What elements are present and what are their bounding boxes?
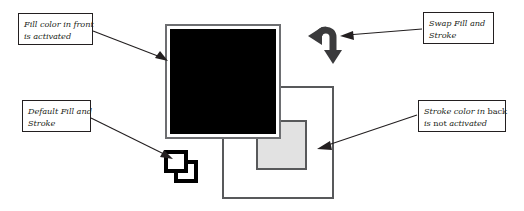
callout-default-fill-and-stroke: Default Fill and Stroke [22, 100, 91, 132]
callout-emphasis: back [487, 106, 506, 116]
callout-line-1: Swap Fill and [429, 17, 488, 29]
arrow-default-fill-stroke [91, 118, 173, 159]
callout-line-1: Stroke color in back [424, 105, 500, 117]
callout-emphasis: not [433, 118, 446, 128]
callout-line-2: Stroke [429, 29, 488, 41]
fill-and-stroke-diagram: Fill color in front is activated Default… [0, 0, 524, 211]
callout-line-2: is not activated [424, 117, 500, 129]
arrow-swap [340, 29, 422, 40]
callout-fill-color-in-front: Fill color in front is activated [18, 13, 93, 45]
callout-line-2: is activated [24, 30, 87, 42]
callout-text: is [424, 118, 433, 128]
callout-swap-fill-and-stroke: Swap Fill and Stroke [423, 12, 494, 44]
arrow-fill-front [93, 31, 168, 61]
callout-text: Stroke color in [424, 106, 487, 116]
callout-line-1: Default Fill and [28, 105, 85, 117]
callout-stroke-color-in-back: Stroke color in back is not activated [418, 100, 506, 132]
callout-line-2: Stroke [28, 117, 85, 129]
arrow-stroke-back [317, 115, 417, 150]
callout-line-1: Fill color in front [24, 18, 87, 30]
callout-text: activated [447, 118, 487, 128]
